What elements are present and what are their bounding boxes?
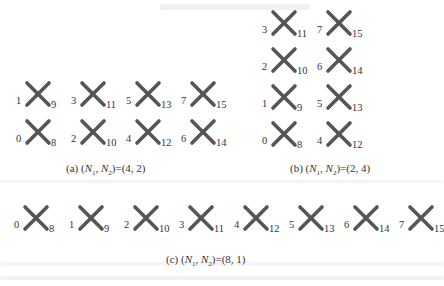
cross-dipole-icon — [134, 80, 162, 108]
cross-dipole-icon — [132, 204, 160, 232]
element-index-left: 2 — [124, 220, 129, 231]
element-index-left: 1 — [262, 99, 267, 110]
element-index-left: 0 — [14, 220, 19, 231]
cross-dipole-icon — [325, 120, 353, 148]
element-index-right: 10 — [106, 138, 117, 149]
cross-dipole-icon — [77, 204, 105, 232]
element-index-right: 15 — [434, 224, 444, 235]
element-index-right: 9 — [104, 224, 109, 235]
element-index-right: 13 — [161, 100, 172, 111]
background-bleed — [0, 276, 444, 280]
element-index-left: 4 — [126, 134, 131, 145]
cross-dipole-icon — [134, 118, 162, 146]
element-index-left: 3 — [71, 96, 76, 107]
cross-dipole-icon — [79, 80, 107, 108]
cross-dipole-icon — [297, 204, 325, 232]
element-index-right: 10 — [159, 224, 170, 235]
element-index-left: 0 — [262, 136, 267, 147]
element-index-left: 7 — [317, 25, 322, 36]
element-index-right: 10 — [297, 66, 308, 77]
element-index-right: 15 — [216, 100, 227, 111]
cross-dipole-icon — [352, 204, 380, 232]
element-index-left: 5 — [126, 96, 131, 107]
cross-dipole-icon — [189, 118, 217, 146]
element-index-right: 14 — [352, 66, 363, 77]
cross-dipole-icon — [270, 83, 298, 111]
cross-dipole-icon — [325, 9, 353, 37]
element-index-right: 12 — [161, 138, 172, 149]
element-index-left: 6 — [181, 134, 186, 145]
element-index-left: 5 — [289, 220, 294, 231]
cross-dipole-icon — [270, 9, 298, 37]
cross-dipole-icon — [325, 83, 353, 111]
antenna-array-diagram: 1931151371508210412614 31171521061419513… — [0, 0, 444, 286]
element-index-left: 7 — [181, 96, 186, 107]
cross-dipole-icon — [189, 80, 217, 108]
element-index-left: 3 — [179, 220, 184, 231]
element-index-right: 12 — [269, 224, 280, 235]
cross-dipole-icon — [187, 204, 215, 232]
cross-dipole-icon — [79, 118, 107, 146]
element-index-right: 8 — [51, 138, 56, 149]
element-index-right: 9 — [297, 103, 302, 114]
cross-dipole-icon — [24, 118, 52, 146]
element-index-right: 8 — [49, 224, 54, 235]
cross-dipole-icon — [270, 120, 298, 148]
element-index-left: 6 — [344, 220, 349, 231]
element-index-right: 13 — [352, 103, 363, 114]
element-index-right: 14 — [216, 138, 227, 149]
element-index-right: 14 — [379, 224, 390, 235]
cross-dipole-icon — [407, 204, 435, 232]
caption-c: (c) (N1, N2)=(8, 1) — [166, 253, 246, 268]
element-index-left: 1 — [16, 96, 21, 107]
element-index-right: 11 — [214, 224, 224, 235]
element-index-right: 8 — [297, 140, 302, 151]
element-index-left: 1 — [69, 220, 74, 231]
element-index-right: 13 — [324, 224, 335, 235]
element-index-right: 11 — [297, 29, 307, 40]
element-index-left: 0 — [16, 134, 21, 145]
element-index-left: 5 — [317, 99, 322, 110]
element-index-left: 2 — [71, 134, 76, 145]
caption-a: (a) (N1, N2)=(4, 2) — [66, 162, 146, 177]
cross-dipole-icon — [325, 46, 353, 74]
element-index-left: 4 — [234, 220, 239, 231]
caption-b: (b) (N1, N2)=(2, 4) — [290, 162, 370, 177]
background-bleed — [0, 180, 444, 183]
element-index-right: 11 — [106, 100, 116, 111]
element-index-right: 9 — [51, 100, 56, 111]
cross-dipole-icon — [270, 46, 298, 74]
element-index-left: 4 — [317, 136, 322, 147]
element-index-right: 12 — [352, 140, 363, 151]
element-index-left: 3 — [262, 25, 267, 36]
element-index-left: 6 — [317, 62, 322, 73]
element-index-left: 7 — [399, 220, 404, 231]
element-index-right: 15 — [352, 29, 363, 40]
cross-dipole-icon — [22, 204, 50, 232]
cross-dipole-icon — [24, 80, 52, 108]
cross-dipole-icon — [242, 204, 270, 232]
element-index-left: 2 — [262, 62, 267, 73]
